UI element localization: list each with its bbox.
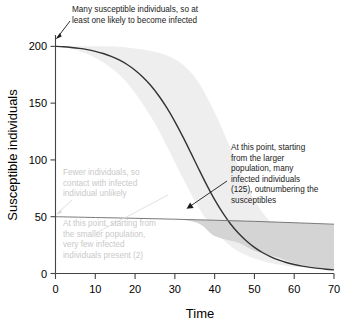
annotation-line: the smaller population, xyxy=(63,230,145,239)
x-tick-label: 20 xyxy=(129,283,141,295)
annotation-line: Many susceptible individuals, so at xyxy=(72,5,199,14)
x-tick-label: 60 xyxy=(288,283,300,295)
annotation-line: from the larger xyxy=(231,154,285,163)
arrow-head-anno-right xyxy=(187,203,194,209)
x-tick-label: 50 xyxy=(248,283,260,295)
x-tick-label: 70 xyxy=(328,283,340,295)
y-tick-label: 200 xyxy=(29,40,47,52)
annotation-fewer-individuals: Fewer individuals, socontact with infect… xyxy=(63,168,140,198)
y-tick-label: 50 xyxy=(35,211,47,223)
figure-container: 050100150200 010203040506070 Susceptible… xyxy=(0,0,345,324)
chart-canvas: 050100150200 010203040506070 Susceptible… xyxy=(0,0,345,324)
annotation-line: population, many xyxy=(231,164,294,173)
y-axis-title: Susceptible individuals xyxy=(5,89,20,221)
y-axis-ticks: 050100150200 xyxy=(29,40,56,279)
x-tick-label: 30 xyxy=(169,283,181,295)
annotation-line: very few infected xyxy=(63,240,125,249)
y-tick-label: 100 xyxy=(29,154,47,166)
annotation-line: least one likely to become infected xyxy=(72,16,198,25)
annotation-line: (125), outnumbering the xyxy=(231,185,319,194)
annotation-smaller-population: At this point, starting fromthe smaller … xyxy=(63,219,156,260)
y-tick-label: 0 xyxy=(41,268,47,280)
annotation-line: contact with infected xyxy=(63,179,138,188)
x-tick-label: 0 xyxy=(52,283,58,295)
x-tick-label: 40 xyxy=(209,283,221,295)
annotation-line: susceptibles xyxy=(231,196,276,205)
annotation-line: infected individuals xyxy=(231,175,300,184)
y-tick-label: 150 xyxy=(29,97,47,109)
annotation-line: Fewer individuals, so xyxy=(63,168,140,177)
annotation-larger-population: At this point, startingfrom the largerpo… xyxy=(231,143,319,205)
annotation-line: individual unlikely xyxy=(63,189,128,198)
x-axis-title: Time xyxy=(186,306,214,321)
annotation-line: individuals present (2) xyxy=(63,251,143,260)
x-tick-label: 10 xyxy=(89,283,101,295)
annotation-line: At this point, starting xyxy=(231,143,306,152)
annotation-line: At this point, starting from xyxy=(63,219,156,228)
annotation-many-susceptible: Many susceptible individuals, so atleast… xyxy=(72,5,199,25)
x-axis-ticks: 010203040506070 xyxy=(52,274,340,296)
